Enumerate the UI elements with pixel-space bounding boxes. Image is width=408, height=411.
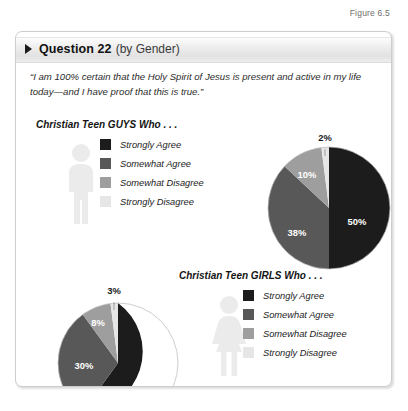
legend-swatch-strongly-agree xyxy=(100,139,111,150)
legend-label: Strongly Disagree xyxy=(120,197,194,207)
legend-swatch-somewhat-agree xyxy=(243,309,254,320)
question-quote: “I am 100% certain that the Holy Spirit … xyxy=(30,70,366,99)
legend-item: Somewhat Disagree xyxy=(243,324,347,343)
legend-label: Somewhat Agree xyxy=(120,159,191,169)
guys-pie-chart: 50% 38% 10% 2% xyxy=(259,128,392,270)
pie-value-label: 2% xyxy=(318,132,332,143)
question-subtitle: (by Gender) xyxy=(116,42,180,56)
legend-swatch-strongly-agree xyxy=(243,290,254,301)
girls-group-title: Christian Teen GIRLS Who . . . xyxy=(179,270,323,281)
girls-legend: Strongly Agree Somewhat Agree Somewhat D… xyxy=(243,286,347,362)
male-figure-icon xyxy=(60,142,102,230)
legend-item: Somewhat Agree xyxy=(243,305,347,324)
legend-item: Strongly Disagree xyxy=(243,343,347,362)
figure-caption: Figure 6.5 xyxy=(350,8,390,18)
legend-swatch-strongly-disagree xyxy=(243,347,254,358)
legend-item: Strongly Agree xyxy=(100,135,204,154)
girls-pie-chart: 60% 30% 8% 3% xyxy=(46,280,194,387)
triangle-right-icon xyxy=(25,44,32,54)
legend-item: Strongly Disagree xyxy=(100,192,204,211)
legend-label: Somewhat Disagree xyxy=(263,329,347,339)
legend-label: Somewhat Agree xyxy=(263,310,334,320)
guys-legend: Strongly Agree Somewhat Agree Somewhat D… xyxy=(100,135,204,211)
legend-label: Strongly Agree xyxy=(263,291,324,301)
pie-value-label: 8% xyxy=(91,317,105,328)
legend-swatch-strongly-disagree xyxy=(100,196,111,207)
legend-swatch-somewhat-disagree xyxy=(243,328,254,339)
question-title: Question 22 xyxy=(39,42,112,56)
pie-value-label: 30% xyxy=(75,360,94,371)
question-header: Question 22 (by Gender) xyxy=(16,37,391,61)
guys-group-title: Christian Teen GUYS Who . . . xyxy=(36,119,177,130)
legend-label: Somewhat Disagree xyxy=(120,178,204,188)
legend-item: Strongly Agree xyxy=(243,286,347,305)
pie-value-label: 60% xyxy=(140,383,159,387)
legend-item: Somewhat Disagree xyxy=(100,173,204,192)
legend-label: Strongly Agree xyxy=(120,140,181,150)
pie-value-label: 10% xyxy=(298,169,317,180)
figure-panel: Question 22 (by Gender) “I am 100% certa… xyxy=(15,31,392,387)
legend-item: Somewhat Agree xyxy=(100,154,204,173)
pie-value-label: 3% xyxy=(107,285,121,296)
legend-label: Strongly Disagree xyxy=(263,348,337,358)
pie-value-label: 50% xyxy=(348,216,367,227)
legend-swatch-somewhat-agree xyxy=(100,158,111,169)
legend-swatch-somewhat-disagree xyxy=(100,177,111,188)
pie-value-label: 38% xyxy=(288,227,307,238)
